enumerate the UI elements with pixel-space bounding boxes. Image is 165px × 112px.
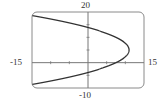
x-max-label: 15 xyxy=(148,58,157,67)
y-min-label: -10 xyxy=(79,91,91,100)
y-max-label: 20 xyxy=(81,1,90,10)
x-min-label: -15 xyxy=(10,58,22,67)
parabola-curve xyxy=(32,16,129,85)
